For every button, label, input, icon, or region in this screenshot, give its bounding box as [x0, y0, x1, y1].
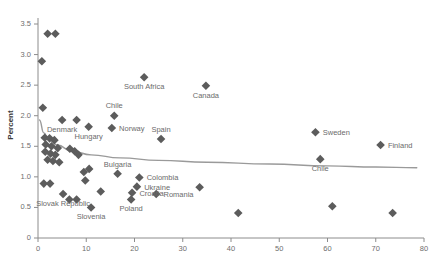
x-tick-label: 60 [323, 244, 331, 253]
y-axis-title-label: Percent [6, 110, 15, 140]
y-tick-label: 2.5 [21, 80, 31, 89]
data-point-marker [135, 173, 144, 182]
data-point-label: Romania [164, 190, 195, 199]
plot-area: Percent 00.51.01.52.02.53.03.5 010203040… [0, 0, 433, 257]
y-tick-label: 1.5 [21, 141, 31, 150]
data-point-marker [46, 179, 55, 188]
data-point-marker [202, 81, 211, 90]
x-axis-ticks: 01020304050607080 [36, 238, 428, 253]
data-point-marker [84, 122, 93, 131]
trend-line [39, 120, 416, 168]
data-point-marker [51, 29, 60, 38]
data-point-marker [96, 187, 105, 196]
data-point-marker [55, 158, 64, 167]
scatter-chart: Percent 00.51.01.52.02.53.03.5 010203040… [0, 0, 433, 257]
x-tick-label: 10 [82, 244, 90, 253]
x-tick-label: 0 [36, 244, 40, 253]
data-point-label: Colombia [147, 173, 180, 182]
data-point-label: Sweden [323, 128, 350, 137]
y-tick-label: 0.5 [21, 202, 31, 211]
data-point-labels: South AfricaCanadaDenmarkHungaryChileNor… [36, 82, 412, 221]
data-point-marker [234, 209, 243, 218]
data-point-marker [58, 116, 67, 125]
data-point-marker [108, 124, 117, 133]
data-point-label: South Africa [124, 82, 165, 91]
data-point-marker [38, 57, 47, 66]
data-point-label: Hungary [74, 132, 103, 141]
y-axis-ticks: 00.51.01.52.02.53.03.5 [21, 19, 38, 242]
x-tick-label: 30 [179, 244, 187, 253]
data-point-marker [59, 190, 68, 199]
data-point-marker [72, 116, 81, 125]
data-point-marker [195, 183, 204, 192]
x-tick-label: 80 [420, 244, 428, 253]
data-point-marker [157, 135, 166, 144]
y-tick-label: 3.5 [21, 19, 31, 28]
data-point-label: Chile [312, 164, 329, 173]
data-point-label: Norway [119, 124, 145, 133]
x-tick-label: 40 [227, 244, 235, 253]
data-point-label: Croatia [139, 189, 164, 198]
data-point-marker [311, 128, 320, 137]
data-point-marker [39, 103, 48, 112]
data-point-label: Finland [388, 141, 413, 150]
data-point-label: Spain [151, 125, 170, 134]
data-point-label: Slovak Republic [36, 199, 90, 208]
data-point-marker [127, 195, 136, 204]
data-point-marker [140, 73, 149, 82]
data-point-marker [110, 111, 119, 120]
data-point-marker [376, 141, 385, 150]
y-tick-label: 3.0 [21, 50, 31, 59]
data-point-marker [128, 188, 137, 197]
data-point-marker [113, 170, 122, 179]
y-tick-label: 1.0 [21, 172, 31, 181]
data-point-marker [81, 176, 90, 185]
data-point-label: Poland [119, 204, 142, 213]
x-tick-label: 20 [130, 244, 138, 253]
data-point-marker [388, 209, 397, 218]
data-point-marker [43, 29, 52, 38]
data-point-label: Chile [106, 101, 123, 110]
data-point-label: Slovenia [77, 212, 107, 221]
data-points [38, 29, 397, 217]
data-point-label: Denmark [47, 125, 78, 134]
y-tick-label: 2.0 [21, 111, 31, 120]
x-tick-label: 50 [275, 244, 283, 253]
data-point-label: Canada [193, 91, 220, 100]
x-tick-label: 70 [372, 244, 380, 253]
data-point-label: Bulgaria [104, 160, 132, 169]
data-point-marker [316, 155, 325, 164]
data-point-marker [328, 202, 337, 211]
y-axis-title: Percent [6, 110, 15, 140]
y-tick-label: 0 [27, 233, 31, 242]
